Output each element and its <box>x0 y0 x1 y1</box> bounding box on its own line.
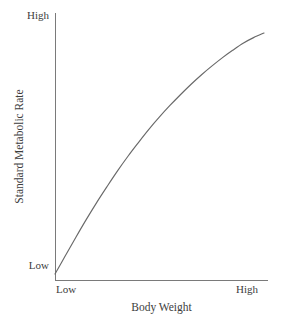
metabolic-rate-curve <box>55 33 264 274</box>
y-axis-tick-low: Low <box>29 259 49 272</box>
y-axis-title: Standard Metabolic Rate <box>8 0 30 292</box>
metabolic-rate-chart: High Low Low High Standard Metabolic Rat… <box>0 0 300 319</box>
y-axis-title-text: Standard Metabolic Rate <box>8 0 30 292</box>
x-axis-tick-low: Low <box>56 283 76 296</box>
y-axis-tick-high: High <box>27 9 49 22</box>
x-axis-tick-high: High <box>236 283 258 296</box>
x-axis-title: Body Weight <box>55 300 268 314</box>
